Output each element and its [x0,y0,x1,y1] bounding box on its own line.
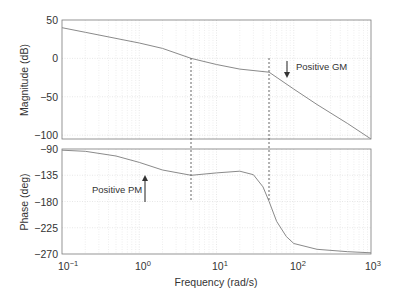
phase-tick-neg225: −225 [34,222,58,234]
phase-tick-neg270: −270 [34,248,58,260]
x-tick-4: 103 [365,259,381,272]
phase-tick-neg135: −135 [34,169,58,181]
magnitude-y-label: Magnitude (dB) [18,44,30,116]
pm-arrow-icon [142,175,148,202]
mag-tick-50: 50 [46,14,58,26]
svg-text:100: 100 [135,259,151,272]
grid-lines [62,20,371,254]
x-tick-0: 10−1 [58,259,78,272]
pm-annotation: Positive PM [92,184,142,195]
phase-y-label: Phase (deg) [18,173,30,230]
mag-tick-neg50: −50 [40,91,58,103]
x-tick-1: 100 [135,259,151,272]
gm-arrow-icon [284,61,290,78]
svg-text:101: 101 [212,259,228,272]
x-tick-3: 102 [290,259,306,272]
x-tick-2: 101 [212,259,228,272]
mag-tick-neg100: −100 [34,129,58,141]
x-axis-label: Frequency (rad/s) [175,276,258,288]
mag-tick-0: 0 [52,52,58,64]
bode-plot: Positive GM Positive PM 50 0 −50 −100 −9… [0,0,397,303]
phase-tick-neg90: −90 [40,143,58,155]
svg-text:10−1: 10−1 [58,259,78,272]
svg-text:102: 102 [290,259,306,272]
phase-tick-neg180: −180 [34,196,58,208]
gm-annotation: Positive GM [296,61,347,72]
svg-text:103: 103 [365,259,381,272]
